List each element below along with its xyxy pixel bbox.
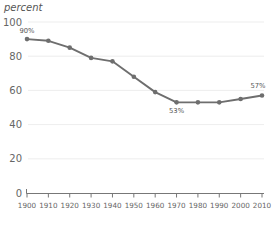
data-point-marker <box>217 100 222 105</box>
data-point-marker <box>153 90 158 95</box>
data-point-annotation: 90% <box>19 27 35 35</box>
y-axis-tick-label: 0 <box>16 188 22 199</box>
data-point-marker <box>196 100 201 105</box>
data-point-marker <box>238 97 243 102</box>
chart-container: percent 020406080100 1900191019201930194… <box>0 0 273 225</box>
data-point-marker <box>25 37 30 42</box>
x-axis-tick-label: 1940 <box>103 201 122 210</box>
x-axis-tick-label: 1980 <box>189 201 208 210</box>
x-axis-tick-label: 1970 <box>167 201 186 210</box>
x-axis-tick-label: 2000 <box>231 201 250 210</box>
data-point-marker <box>174 100 179 105</box>
data-point-marker <box>132 74 137 79</box>
y-axis-tick-label: 60 <box>9 85 22 96</box>
x-axis-tick-label: 1930 <box>82 201 101 210</box>
y-axis-tick-label: 80 <box>9 51 22 62</box>
line-chart: percent 020406080100 1900191019201930194… <box>0 0 273 225</box>
x-axis-tick-label: 1990 <box>210 201 229 210</box>
data-point-marker <box>67 45 72 50</box>
data-point-marker <box>89 56 94 61</box>
data-point-marker <box>46 39 51 44</box>
x-axis-tick-label: 1910 <box>39 201 58 210</box>
x-axis-tick-label: 1900 <box>18 201 37 210</box>
y-axis-tick-label: 20 <box>9 153 22 164</box>
chart-background <box>0 0 273 225</box>
data-point-annotation: 57% <box>250 82 266 90</box>
x-axis-tick-label: 1950 <box>125 201 144 210</box>
y-axis-tick-label: 40 <box>9 119 22 130</box>
data-point-annotation: 53% <box>169 107 185 115</box>
x-axis-tick-label: 1920 <box>61 201 80 210</box>
data-point-marker <box>260 93 265 98</box>
data-point-marker <box>110 59 115 64</box>
x-axis-tick-label: 2010 <box>253 201 272 210</box>
y-axis-title: percent <box>3 2 44 13</box>
x-axis-tick-label: 1960 <box>146 201 165 210</box>
